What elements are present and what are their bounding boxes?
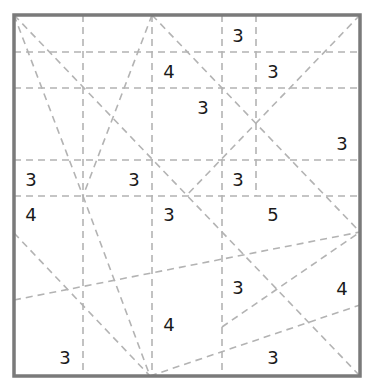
clue-number: 4 (163, 314, 174, 335)
clue-number: 3 (163, 204, 174, 225)
clue-number: 4 (163, 61, 174, 82)
clue-number: 3 (336, 133, 347, 154)
clue-number: 3 (59, 347, 70, 368)
diagonal-guide-line[interactable] (83, 15, 152, 196)
clue-number: 3 (197, 97, 208, 118)
clue-number: 3 (232, 25, 243, 46)
clue-number: 3 (267, 347, 278, 368)
clue-number: 3 (232, 169, 243, 190)
guide-lines (14, 15, 360, 376)
diagonal-guide-line[interactable] (150, 305, 360, 376)
diagonal-guide-line[interactable] (186, 15, 360, 196)
clue-number: 4 (25, 204, 36, 225)
diagonal-guide-line[interactable] (14, 232, 360, 300)
clue-number: 3 (128, 169, 139, 190)
clue-number: 3 (25, 169, 36, 190)
clue-number: 3 (267, 61, 278, 82)
clue-number: 3 (232, 277, 243, 298)
puzzle-board[interactable]: 3433333343534433 (0, 0, 373, 385)
clue-number: 4 (336, 278, 347, 299)
clue-number: 5 (267, 204, 278, 225)
diagonal-guide-line[interactable] (83, 196, 150, 376)
diagonal-guide-line[interactable] (14, 233, 150, 376)
